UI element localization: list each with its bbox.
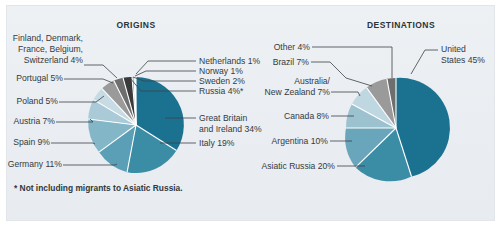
figure-frame: ORIGINS DESTINATIONS Finland, Denmark, F… — [0, 0, 501, 228]
destinations-title: DESTINATIONS — [355, 20, 447, 30]
label-russia: Russia 4%* — [199, 86, 243, 97]
label-finland-group-line1: Finland, Denmark, — [0, 33, 83, 44]
label-asiatic-russia: Asiatic Russia 20% — [240, 161, 335, 172]
label-spain: Spain 9% — [0, 137, 50, 148]
label-united-states-line1: United — [441, 44, 466, 55]
label-austria: Austria 7% — [0, 116, 55, 127]
label-finland-group-line3: Switzerland 4% — [0, 55, 83, 66]
label-italy: Italy 19% — [199, 138, 234, 149]
label-brazil: Brazil 7% — [240, 57, 309, 68]
label-portugal: Portugal 5% — [0, 73, 63, 84]
label-other: Other 4% — [240, 42, 310, 53]
label-great-britain-line2: and Ireland 34% — [199, 124, 262, 135]
origins-title: ORIGINS — [102, 20, 170, 30]
footnote: * Not including migrants to Asiatic Russ… — [14, 183, 183, 193]
label-poland: Poland 5% — [0, 96, 58, 107]
label-finland-group-line2: France, Belgium, — [0, 44, 83, 55]
label-sweden: Sweden 2% — [199, 76, 245, 87]
label-united-states-line2: States 45% — [441, 55, 485, 66]
label-australia-new-zealand-line1: Australia/ — [240, 76, 330, 87]
label-argentina: Argentina 10% — [240, 136, 328, 147]
label-australia-new-zealand-line2: New Zealand 7% — [240, 87, 330, 98]
label-germany: Germany 11% — [0, 159, 62, 170]
label-canada: Canada 8% — [240, 111, 329, 122]
chart-layer: ORIGINS DESTINATIONS Finland, Denmark, F… — [0, 0, 501, 228]
label-norway: Norway 1% — [199, 66, 243, 77]
